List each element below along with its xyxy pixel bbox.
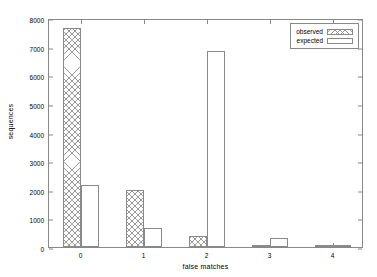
y-axis-label: sequences — [7, 82, 14, 162]
y-tick-mark — [358, 105, 362, 106]
y-tick-mark — [49, 48, 53, 49]
x-tick-mark — [207, 20, 208, 24]
y-tick-mark — [358, 163, 362, 164]
bar-expected-2 — [207, 51, 225, 247]
legend-item-observed: observed — [296, 27, 353, 36]
y-tick-mark — [49, 20, 53, 21]
x-tick-label: 1 — [142, 247, 146, 259]
y-tick-mark — [49, 163, 53, 164]
x-tick-mark — [270, 20, 271, 24]
y-tick-mark — [358, 134, 362, 135]
y-tick-label: 6000 — [30, 74, 49, 81]
y-tick-mark — [358, 77, 362, 78]
legend: observedexpected — [290, 23, 359, 49]
y-tick-mark — [49, 220, 53, 221]
bar-observed-3 — [252, 245, 270, 247]
y-tick-label: 5000 — [30, 102, 49, 109]
bar-observed-4 — [315, 245, 333, 247]
bar-observed-2 — [189, 236, 207, 247]
legend-label-observed: observed — [296, 28, 323, 35]
x-tick-label: 3 — [268, 247, 272, 259]
y-tick-mark — [49, 191, 53, 192]
x-tick-label: 4 — [331, 247, 335, 259]
y-tick-mark — [358, 249, 362, 250]
plot-area: 010002000300040005000600070008000 01234 … — [48, 19, 363, 248]
y-tick-mark — [49, 77, 53, 78]
y-tick-mark — [49, 105, 53, 106]
y-tick-mark — [49, 249, 53, 250]
bar-expected-0 — [81, 185, 99, 247]
legend-label-expected: expected — [297, 37, 323, 44]
bar-expected-3 — [270, 238, 288, 247]
legend-item-expected: expected — [296, 36, 353, 45]
bar-expected-1 — [144, 228, 162, 247]
y-tick-mark — [358, 220, 362, 221]
y-tick-label: 1000 — [30, 217, 49, 224]
y-tick-label: 3000 — [30, 160, 49, 167]
x-axis-label: false matches — [48, 263, 363, 270]
bar-expected-4 — [333, 245, 351, 247]
y-tick-mark — [358, 191, 362, 192]
y-tick-label: 4000 — [30, 131, 49, 138]
y-tick-label: 2000 — [30, 188, 49, 195]
y-tick-label: 8000 — [30, 17, 49, 24]
legend-swatch-expected — [327, 38, 353, 44]
x-tick-mark — [81, 20, 82, 24]
x-tick-mark — [144, 20, 145, 24]
y-tick-label: 0 — [40, 246, 49, 253]
y-tick-mark — [49, 134, 53, 135]
y-tick-label: 7000 — [30, 45, 49, 52]
x-tick-label: 0 — [79, 247, 83, 259]
x-tick-label: 2 — [205, 247, 209, 259]
bar-observed-0 — [63, 28, 81, 247]
y-tick-mark — [358, 20, 362, 21]
bar-observed-1 — [126, 190, 144, 247]
legend-swatch-observed — [327, 29, 353, 35]
bar-chart-figure: sequences 010002000300040005000600070008… — [0, 0, 377, 277]
